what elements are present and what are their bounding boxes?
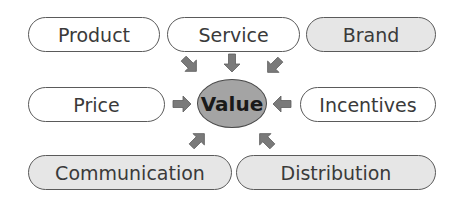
arrow-right-icon <box>173 96 191 112</box>
arrow-left-icon <box>273 96 291 112</box>
arrows-layer <box>0 0 461 200</box>
arrow-down-icon <box>224 54 240 72</box>
arrow-down-left-icon <box>262 54 286 78</box>
arrow-down-right-icon <box>178 53 202 77</box>
arrow-up-left-icon <box>254 128 278 152</box>
arrow-up-right-icon <box>186 128 210 152</box>
